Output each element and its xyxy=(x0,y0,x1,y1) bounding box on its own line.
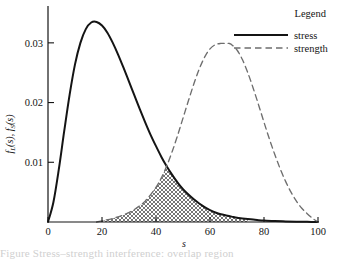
y-tick-label: 0.01 xyxy=(25,157,43,168)
x-tick-label: 60 xyxy=(205,226,216,237)
stress-strength-chart: 0204060801000.010.020.03 fL(s), fS(s) s … xyxy=(0,0,340,259)
legend-title: Legend xyxy=(295,8,327,19)
x-tick-label: 100 xyxy=(310,226,326,237)
x-tick-label: 0 xyxy=(45,226,50,237)
legend-label-strength: strength xyxy=(294,43,329,54)
figure-caption-partial: Figure Stress–strength interference: ove… xyxy=(0,247,340,259)
x-tick-label: 40 xyxy=(151,226,162,237)
legend-label-stress: stress xyxy=(294,30,317,41)
y-tick-label: 0.02 xyxy=(25,97,43,108)
x-tick-label: 80 xyxy=(259,226,270,237)
figure-container: 0204060801000.010.020.03 fL(s), fS(s) s … xyxy=(0,0,340,259)
y-tick-label: 0.03 xyxy=(25,38,43,49)
x-tick-label: 20 xyxy=(97,226,108,237)
